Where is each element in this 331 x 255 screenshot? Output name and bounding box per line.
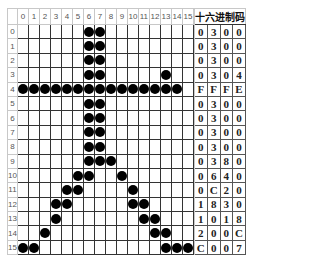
pixel-cell [94,197,105,211]
filled-dot-icon [51,214,61,224]
hex-digit: 0 [233,183,246,197]
grid-row: 121830 [8,197,246,211]
row-label: 9 [8,154,18,168]
hex-digit: 0 [194,68,207,82]
pixel-cell [171,111,182,125]
pixel-cell [94,168,105,182]
corner-cell [8,9,18,25]
pixel-cell [182,53,193,67]
hex-digit: 0 [207,226,220,240]
hex-digit: 0 [233,39,246,53]
pixel-cell [17,39,28,53]
pixel-cell [17,240,28,254]
pixel-cell [94,25,105,39]
row-label: 3 [8,68,18,82]
pixel-cell [94,212,105,226]
filled-dot-icon [84,27,94,37]
pixel-cell [182,82,193,96]
hex-digit: 0 [220,226,232,240]
pixel-cell [149,168,160,182]
hex-digit: 0 [194,53,207,67]
pixel-cell [17,96,28,110]
pixel-cell [39,154,50,168]
pixel-cell [138,212,149,226]
pixel-cell [50,125,61,139]
pixel-cell [83,240,94,254]
pixel-cell [138,68,149,82]
filled-dot-icon [84,84,94,94]
grid-row: 70300 [8,125,246,139]
hex-digit: 3 [207,25,220,39]
hex-digit: 0 [220,96,232,110]
filled-dot-icon [29,84,39,94]
hex-digit: 0 [194,183,207,197]
pixel-cell [182,96,193,110]
pixel-cell [127,68,138,82]
pixel-cell [28,125,39,139]
pixel-cell [28,240,39,254]
hex-digit: 0 [194,154,207,168]
pixel-cell [138,240,149,254]
pixel-cell [127,197,138,211]
pixel-cell [171,240,182,254]
column-label: 9 [116,9,127,25]
pixel-cell [94,125,105,139]
pixel-cell [94,39,105,53]
pixel-cell [149,111,160,125]
filled-dot-icon [73,185,83,195]
filled-dot-icon [128,185,138,195]
hex-digit: 2 [220,183,232,197]
pixel-cell [61,183,72,197]
filled-dot-icon [139,199,149,209]
filled-dot-icon [95,41,105,51]
pixel-cell [160,183,171,197]
filled-dot-icon [150,84,160,94]
pixel-cell [160,25,171,39]
column-label: 6 [83,9,94,25]
hex-digit: 0 [194,168,207,182]
pixel-cell [39,96,50,110]
grid-row: 15C007 [8,240,246,254]
pixel-cell [116,212,127,226]
hex-digit: 3 [207,68,220,82]
pixel-cell [171,212,182,226]
pixel-cell [182,168,193,182]
pixel-cell [17,82,28,96]
grid-row: 80300 [8,140,246,154]
hex-digit: 0 [220,111,232,125]
pixel-cell [83,140,94,154]
hex-digit: 0 [194,111,207,125]
filled-dot-icon [62,84,72,94]
hex-digit: 0 [220,68,232,82]
pixel-cell [72,168,83,182]
column-label: 5 [72,9,83,25]
pixel-cell [50,53,61,67]
pixel-cell [138,226,149,240]
pixel-cell [138,168,149,182]
pixel-cell [28,168,39,182]
pixel-cell [83,96,94,110]
pixel-cell [182,183,193,197]
pixel-cell [94,53,105,67]
row-label: 15 [8,240,18,254]
pixel-cell [105,240,116,254]
filled-dot-icon [95,142,105,152]
pixel-cell [72,25,83,39]
pixel-cell [61,82,72,96]
pixel-cell [171,183,182,197]
hex-digit: F [207,82,220,96]
pixel-cell [50,140,61,154]
pixel-cell [39,111,50,125]
hex-digit: C [207,183,220,197]
pixel-cell [138,39,149,53]
pixel-cell [127,240,138,254]
pixel-cell [105,82,116,96]
hex-digit: 4 [220,168,232,182]
pixel-cell [72,96,83,110]
pixel-cell [182,197,193,211]
column-label: 12 [149,9,160,25]
pixel-cell [149,53,160,67]
grid-row: 30304 [8,68,246,82]
pixel-cell [149,197,160,211]
pixel-cell [72,183,83,197]
